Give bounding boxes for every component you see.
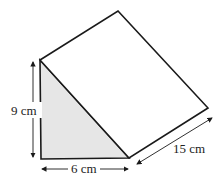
height-label: 9 cm [11, 103, 37, 118]
prism-diagram: 9 cm 6 cm 15 cm [0, 0, 221, 180]
base-label: 6 cm [71, 161, 97, 176]
length-label: 15 cm [173, 141, 205, 156]
